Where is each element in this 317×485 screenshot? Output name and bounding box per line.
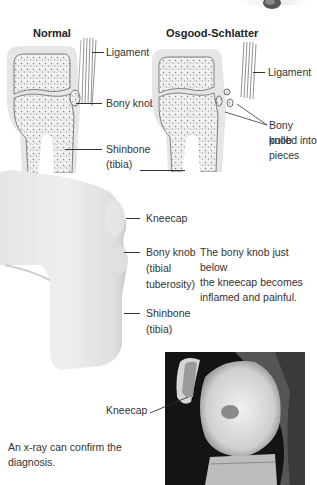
knee-bony-knob-leader (124, 252, 140, 253)
knee-shinbone-label-2: (tibia) (146, 322, 172, 337)
knee-shinbone-label-1: Shinbone (146, 306, 190, 321)
osgood-bony-knob-leaders (225, 100, 270, 130)
knee-caption-line-3: inflamed and painful. (200, 290, 317, 305)
knee-bony-knob-label-1: Bony knob (146, 245, 196, 260)
xray-caption-line-2: diagnosis. (8, 455, 158, 470)
normal-ligament-label: Ligament (106, 45, 149, 60)
xray-kneecap-leader (150, 395, 190, 415)
knee-kneecap-label: Kneecap (146, 211, 187, 226)
osgood-ligament-label: Ligament (268, 65, 311, 80)
knee-shinbone-leader (124, 313, 140, 314)
knee-caption-line-2: the kneecap becomes (200, 275, 317, 290)
osgood-title: Osgood-Schlatter (166, 27, 258, 39)
xray-caption-line-1: An x-ray can confirm the (8, 440, 158, 455)
normal-ligament-illustration (76, 38, 101, 108)
xray-image (165, 352, 305, 485)
knee-kneecap-leader (126, 218, 140, 219)
xray-kneecap-label: Kneecap (106, 403, 147, 418)
normal-bony-knob-leader (76, 103, 102, 104)
osgood-bony-knob-label-2: pulled into (269, 133, 317, 148)
normal-ligament-leader (92, 52, 104, 53)
partial-image-top (240, 0, 310, 10)
normal-shinbone-label-1: Shinbone (106, 142, 150, 157)
normal-bony-knob-label: Bony knob (106, 96, 156, 111)
osgood-ligament-leader (253, 72, 265, 73)
knee-leg-illustration (0, 170, 135, 375)
xray-caption: An x-ray can confirm the diagnosis. (8, 440, 158, 470)
normal-shinbone-leader (65, 149, 102, 150)
knee-caption: The bony knob just below the kneecap bec… (200, 245, 317, 305)
osgood-bony-knob-label-3: pieces (269, 148, 299, 163)
knee-bony-knob-label-3: tuberosity) (146, 277, 195, 292)
knee-caption-line-1: The bony knob just below (200, 245, 317, 275)
osgood-shinbone-leader (140, 170, 185, 171)
knee-bony-knob-label-2: (tibial (146, 261, 171, 276)
